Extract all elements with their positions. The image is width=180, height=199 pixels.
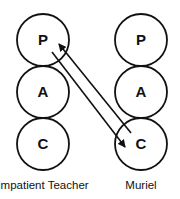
muriel-label: Muriel — [125, 179, 156, 191]
arrow-teacher-parent-to-muriel-child — [52, 52, 125, 147]
ego-state-diagram: P A C P A C — [0, 0, 180, 199]
arrow-muriel-child-to-teacher-parent — [59, 44, 131, 133]
teacher-child-letter: C — [38, 135, 49, 152]
impatient-teacher-label: Impatient Teacher — [0, 179, 89, 191]
muriel-ego-states: P A C — [115, 14, 167, 170]
teacher-parent-letter: P — [38, 31, 48, 48]
muriel-child-letter: C — [136, 135, 147, 152]
muriel-parent-letter: P — [136, 31, 146, 48]
muriel-adult-letter: A — [136, 83, 147, 100]
teacher-adult-letter: A — [38, 83, 49, 100]
impatient-teacher-ego-states: P A C — [17, 14, 69, 170]
